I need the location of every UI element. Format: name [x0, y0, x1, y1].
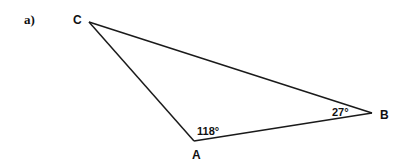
edge-cb [89, 22, 372, 113]
part-label: a) [24, 12, 35, 27]
vertex-label-b: B [380, 108, 389, 122]
vertex-label-c: C [73, 13, 82, 27]
angle-label-b: 27° [332, 106, 349, 118]
angle-label-a: 118° [197, 125, 219, 137]
edge-ca [89, 22, 194, 141]
triangle-diagram: a) C A B 118° 27° [0, 0, 406, 167]
triangle [89, 22, 372, 141]
vertex-label-a: A [192, 148, 201, 162]
